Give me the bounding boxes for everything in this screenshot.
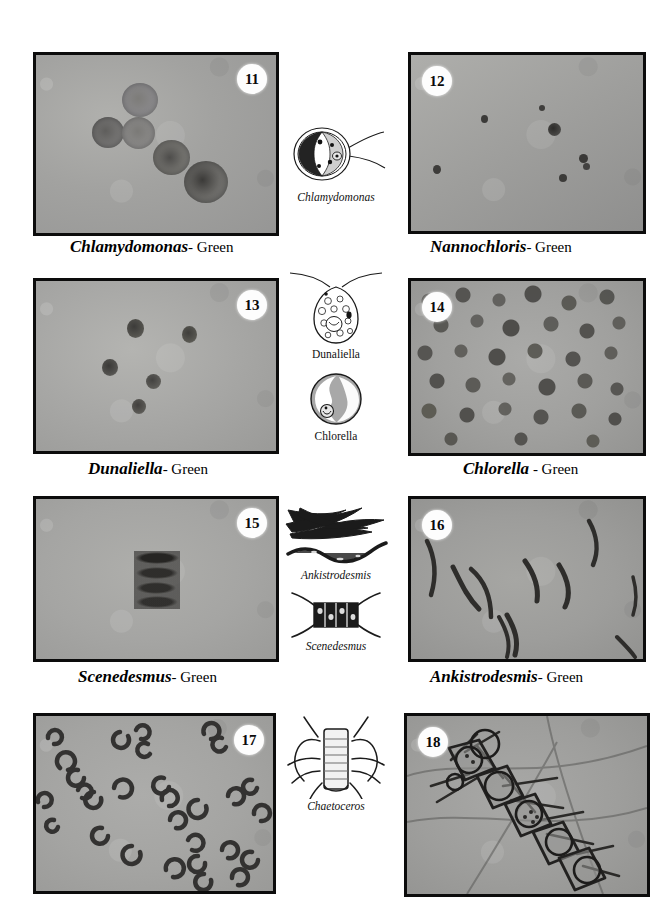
algae-cell [583,163,590,170]
diagram-label: Dunaliella [288,348,384,360]
algae-cell [146,374,161,389]
micrograph-panel-16: 16 [408,496,646,662]
micrograph-panel-14: 14 [408,278,646,456]
scenedesmus-coenobium [134,551,180,609]
diagram-chaetoceros: Chaetoceros [286,715,386,812]
micrograph-panel-11: 11 [33,52,279,236]
caption-chlamydomonas: Chlamydomonas- Green [70,237,233,257]
diagram-ankistrodesmis: Ankistrodesmis [284,506,388,581]
micrograph-field: 12 [411,55,643,231]
diagram-scenedesmus: Scenedesmus [290,591,382,652]
chaetoceros-drawing [286,715,386,799]
algae-cell [559,174,567,182]
micrograph-panel-12: 12 [408,52,646,234]
group-name: - Green [538,669,583,685]
panel-number-badge: 17 [234,725,264,755]
diagram-label: Chlorella [297,430,375,442]
panel-number-badge: 13 [237,290,267,320]
micrograph-panel-13: 13 [33,278,279,454]
micrograph-field: 15 [36,499,276,659]
algae-micrograph-plate: 11 12 Chlamydomonas- Green Nannochloris-… [0,0,671,904]
micrograph-panel-18: 18 [404,713,650,897]
panel-number-badge: 14 [422,292,452,322]
group-name: - Green [529,461,578,477]
algae-cell [548,123,561,136]
algae-cell [539,105,545,111]
panel-number-badge: 18 [418,727,448,757]
chlamydomonas-drawing [286,118,386,190]
algae-cell [481,115,488,123]
chlorella-drawing [297,371,375,429]
micrograph-field: 13 [36,281,276,451]
group-name: - Green [163,461,208,477]
algae-cell [122,117,155,149]
dunaliella-drawing [288,271,384,347]
algae-cell [182,326,197,343]
genus-name: Scenedesmus [78,667,172,686]
genus-name: Chlorella [463,459,529,478]
caption-nannochloris: Nannochloris- Green [430,237,572,257]
group-name: - Green [526,239,571,255]
genus-name: Nannochloris [430,237,526,256]
panel-number-badge: 15 [237,508,267,538]
diagram-label: Chlamydomonas [286,191,386,203]
algae-cell [153,140,190,175]
algae-cell [184,161,228,203]
micrograph-field: 14 [411,281,643,453]
algae-cell [433,165,441,174]
genus-name: Chlamydomonas [70,237,188,256]
diagram-label: Ankistrodesmis [284,569,388,581]
genus-name: Dunaliella [88,459,163,478]
caption-ankistrodesmis: Ankistrodesmis- Green [430,667,583,687]
diagram-chlorella: Chlorella [297,371,375,442]
panel-number-badge: 11 [237,64,267,94]
algae-cell [579,154,588,163]
algae-cell [132,399,146,414]
diagram-label: Chaetoceros [286,800,386,812]
algae-cell [92,117,124,148]
ankistrodesmis-drawing [284,506,388,568]
diagram-label: Scenedesmus [290,640,382,652]
micrograph-panel-17: 17 [33,713,276,894]
genus-name: Ankistrodesmis [430,667,538,686]
group-name: - Green [172,669,217,685]
micrograph-field: 17 [36,716,273,891]
diagram-chlamydomonas: Chlamydomonas [286,118,386,203]
caption-chlorella: Chlorella - Green [463,459,578,479]
algae-cell [122,83,158,117]
micrograph-field: 16 [411,499,643,659]
scenedesmus-drawing [290,591,382,639]
caption-dunaliella: Dunaliella- Green [88,459,208,479]
algae-cell [127,319,144,338]
diagram-dunaliella: Dunaliella [288,271,384,360]
panel-number-badge: 16 [422,510,452,540]
algae-cell [102,359,118,376]
micrograph-panel-15: 15 [33,496,279,662]
caption-scenedesmus: Scenedesmus- Green [78,667,217,687]
panel-number-badge: 12 [422,66,452,96]
micrograph-field: 18 [407,716,647,894]
micrograph-field: 11 [36,55,276,233]
group-name: - Green [188,239,233,255]
